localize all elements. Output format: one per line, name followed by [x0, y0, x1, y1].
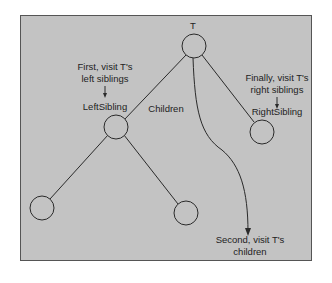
second-annotation-line1: Second, visit T's: [216, 234, 285, 246]
first-annotation-line2: left siblings: [78, 73, 133, 85]
children-traversal-arrow: [193, 58, 248, 232]
root-label: T: [190, 20, 196, 32]
first-annotation-line1: First, visit T's: [78, 61, 133, 73]
second-annotation-line2: children: [216, 246, 285, 258]
edge-left-sibling-to-right-child: [124, 135, 178, 204]
left-sibling-label: LeftSibling: [83, 101, 127, 113]
finally-annotation-line2: right siblings: [245, 84, 308, 96]
finally-annotation: Finally, visit T's right siblings: [245, 72, 308, 96]
right-sibling-node: [250, 120, 274, 144]
left-child-node: [30, 196, 54, 220]
second-annotation: Second, visit T's children: [216, 234, 285, 258]
children-label: Children: [148, 103, 183, 115]
finally-annotation-line1: Finally, visit T's: [245, 72, 308, 84]
right-sibling-label: RightSibling: [252, 106, 303, 118]
edge-left-sibling-to-left-child: [50, 135, 108, 199]
root-node: [182, 34, 206, 58]
first-annotation: First, visit T's left siblings: [78, 61, 133, 85]
right-child-node: [174, 201, 198, 225]
left-sibling-node: [104, 115, 128, 139]
